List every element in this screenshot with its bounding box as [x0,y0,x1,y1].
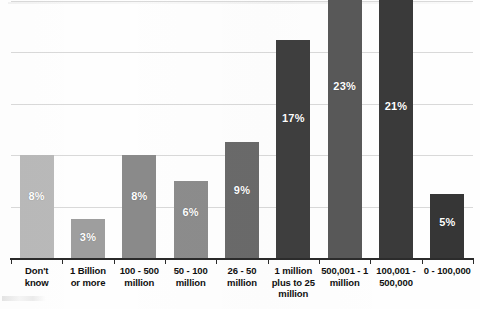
category-label-line: million [213,277,270,289]
category-label-line: 0 - 100,000 [419,265,476,277]
bar-value-label: 23% [328,80,362,92]
x-axis-tick [319,259,320,264]
bar-value-label: 3% [71,231,105,243]
bar: 5% [430,194,464,258]
x-axis-category-label: 50 - 100million [162,265,219,288]
bar: 23% [328,0,362,258]
x-axis-tick [268,259,269,264]
x-axis-tick [11,259,12,264]
x-axis-category-label: 1 Billionor more [59,265,116,288]
category-label-line: know [8,277,65,289]
x-axis-category-label: 0 - 100,000 [419,265,476,277]
category-label-line: million [111,277,168,289]
bar-value-label: 5% [430,216,464,228]
x-axis-tick [422,259,423,264]
x-axis-tick [114,259,115,264]
category-label-line: 100 - 500 [111,265,168,277]
bar-value-label: 8% [20,190,54,202]
x-axis-category-label: 500,001 - 1million [316,265,373,288]
category-label-line: 500,000 [367,277,424,289]
category-label-line: 1 Billion [59,265,116,277]
category-label-line: 26 - 50 [213,265,270,277]
x-axis-category-label: 26 - 50million [213,265,270,288]
bar: 17% [276,40,310,258]
x-axis-category-label: 100 - 500million [111,265,168,288]
bar-value-label: 21% [379,100,413,112]
category-label-line: 1 million [265,265,322,277]
x-axis-category-label: Don'tknow [8,265,65,288]
bar: 6% [174,181,208,258]
category-label-line: or more [59,277,116,289]
bar-value-label: 9% [225,184,259,196]
bar-value-label: 6% [174,206,208,218]
x-axis-category-label: 1 millionplus to 25million [265,265,322,300]
bar: 8% [122,155,156,258]
plot-area: 8%3%8%6%9%17%23%21%5% [0,0,480,259]
category-label-line: Don't [8,265,65,277]
category-label-line: million [162,277,219,289]
x-axis-category-label: 100,001 -500,000 [367,265,424,288]
x-axis-category-labels: Don'tknow1 Billionor more100 - 500millio… [0,265,480,309]
x-axis-tick [473,259,474,264]
x-axis-tick [216,259,217,264]
bar-chart-figure: 8%3%8%6%9%17%23%21%5% Don'tknow1 Billion… [0,0,480,309]
x-axis-line [10,258,474,260]
bar: 9% [225,142,259,258]
bar-value-label: 17% [276,112,310,124]
category-label-line: plus to 25 [265,277,322,289]
bar: 8% [20,155,54,258]
x-axis-tick [370,259,371,264]
bar: 3% [71,219,105,258]
category-label-line: 500,001 - 1 [316,265,373,277]
x-axis-tick [165,259,166,264]
category-label-line: 100,001 - [367,265,424,277]
category-label-line: million [316,277,373,289]
bar: 21% [379,0,413,258]
category-label-line: 50 - 100 [162,265,219,277]
category-label-line: million [265,288,322,300]
x-axis-tick [62,259,63,264]
bar-value-label: 8% [122,190,156,202]
